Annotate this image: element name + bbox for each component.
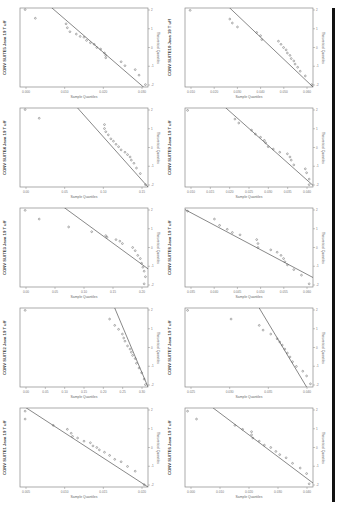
x-tick-label: 0.020 xyxy=(226,190,234,194)
x-axis-label: Sample Quantiles xyxy=(20,195,148,199)
data-point xyxy=(24,109,26,111)
data-point xyxy=(75,33,77,35)
data-point xyxy=(24,309,26,311)
data-point xyxy=(118,328,120,330)
x-tick-label: 0.05 xyxy=(52,290,58,294)
y-axis-label: Theoretical Quantiles xyxy=(150,308,160,388)
data-point xyxy=(189,9,191,11)
plot-frame xyxy=(185,8,313,87)
x-tick-label: 0.040 xyxy=(257,90,265,94)
data-point xyxy=(114,458,116,460)
data-point xyxy=(24,418,26,420)
x-tick-label: 0.015 xyxy=(206,190,214,194)
data-point xyxy=(234,118,236,120)
data-point xyxy=(107,134,109,136)
data-point xyxy=(219,224,221,226)
x-tick-label: 0.020 xyxy=(245,490,253,494)
data-point xyxy=(293,60,295,62)
data-point xyxy=(290,58,292,60)
x-tick-label: 0.030 xyxy=(226,390,234,394)
x-tick-label: 0.05 xyxy=(42,390,48,394)
data-point xyxy=(77,437,79,439)
x-tick-label: 0.025 xyxy=(187,390,195,394)
x-tick-label: 0.030 xyxy=(264,190,272,194)
data-point xyxy=(306,172,308,174)
data-point xyxy=(127,154,129,156)
y-axis-label: Theoretical Quantiles xyxy=(315,308,325,388)
y-axis-label: Theoretical Quantiles xyxy=(315,8,325,88)
data-point xyxy=(301,274,303,276)
data-point xyxy=(129,348,131,350)
data-point xyxy=(267,146,269,148)
data-point xyxy=(91,231,93,233)
data-point xyxy=(308,184,310,186)
x-tick-label: 0.060 xyxy=(303,90,311,94)
y-axis-label: Theoretical Quantiles xyxy=(315,108,325,188)
qq-plot-panel: CONV SUITE8 Java 19 T uff210-1-20.0350.0… xyxy=(165,202,325,302)
data-point xyxy=(143,283,145,285)
data-point xyxy=(279,454,281,456)
data-point xyxy=(275,451,277,453)
data-point xyxy=(145,384,147,386)
x-tick-label: 0.15 xyxy=(110,290,116,294)
data-point xyxy=(226,228,228,230)
x-tick-label: 0.000 xyxy=(22,90,30,94)
data-point xyxy=(70,432,72,434)
plot-area xyxy=(165,2,325,102)
data-point xyxy=(66,27,68,29)
data-point xyxy=(114,324,116,326)
data-point xyxy=(251,431,253,433)
data-point xyxy=(109,455,111,457)
data-point xyxy=(83,36,85,38)
x-tick-label: 0.020 xyxy=(210,90,218,94)
qq-plot-panel: CONV SUITE1 Java 19 T uff210-1-20.0050.0… xyxy=(0,402,160,502)
x-tick-label: 0.15 xyxy=(81,390,87,394)
x-tick-label: 0.20 xyxy=(100,390,106,394)
x-tick-label: 0.25 xyxy=(120,390,126,394)
data-point xyxy=(231,22,233,24)
x-axis-label: Sample Quantiles xyxy=(185,195,313,199)
data-point xyxy=(263,444,265,446)
x-tick-label: 0.035 xyxy=(187,290,195,294)
data-point xyxy=(306,375,308,377)
data-point xyxy=(283,47,285,49)
plot-area xyxy=(0,202,160,302)
x-tick-label: 0.05 xyxy=(62,190,68,194)
plot-area xyxy=(165,402,325,502)
data-point xyxy=(270,333,272,335)
x-tick-label: 0.030 xyxy=(233,90,241,94)
data-point xyxy=(238,122,240,124)
x-tick-label: 0.030 xyxy=(274,490,282,494)
data-point xyxy=(90,442,92,444)
plot-area xyxy=(165,302,325,402)
x-axis-label: Sample Quantiles xyxy=(185,395,313,399)
x-axis-label: Sample Quantiles xyxy=(20,495,148,499)
data-point xyxy=(306,473,308,475)
data-point xyxy=(143,270,145,272)
data-point xyxy=(119,240,121,242)
data-point xyxy=(237,26,239,28)
qq-plot-panel: CONV SUITE4 Java 19 T uff210-1-20.000.05… xyxy=(0,102,160,202)
data-point xyxy=(289,55,291,57)
plot-area xyxy=(165,102,325,202)
data-point xyxy=(115,239,117,241)
data-point xyxy=(310,383,312,385)
x-tick-label: 0.010 xyxy=(61,90,69,94)
data-point xyxy=(287,153,289,155)
data-point xyxy=(138,74,140,76)
data-point xyxy=(124,151,126,153)
data-point xyxy=(132,355,134,357)
data-point xyxy=(120,149,122,151)
data-point xyxy=(297,66,299,68)
x-tick-label: 0.10 xyxy=(81,290,87,294)
plot-frame xyxy=(20,108,148,187)
data-point xyxy=(129,156,131,158)
data-point xyxy=(285,49,287,51)
plot-frame xyxy=(185,108,313,187)
data-point xyxy=(105,131,107,133)
plot-frame xyxy=(185,308,313,387)
data-point xyxy=(145,84,147,86)
data-point xyxy=(134,250,136,252)
x-tick-label: 0.035 xyxy=(284,190,292,194)
data-point xyxy=(24,9,26,11)
